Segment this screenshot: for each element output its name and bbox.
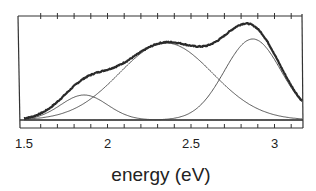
left-axis-line (18, 16, 20, 128)
right-axis-line (302, 14, 303, 128)
gaussian-component-curve (24, 39, 302, 120)
x-tick-labels: 1.522.53 (15, 136, 278, 151)
x-tick-label: 3 (271, 136, 278, 151)
x-tick-label: 2 (104, 136, 111, 151)
x-tick-label: 2.5 (182, 136, 200, 151)
x-tick-label: 1.5 (15, 136, 33, 151)
gaussian-component-curve (24, 43, 302, 119)
spectrum-chart: 1.522.53 energy (eV) (0, 0, 316, 191)
gaussian-component-curve (24, 95, 302, 120)
x-axis-title: energy (eV) (111, 164, 210, 185)
measured-spectrum-curve (24, 23, 302, 119)
gaussian-components (24, 39, 302, 120)
